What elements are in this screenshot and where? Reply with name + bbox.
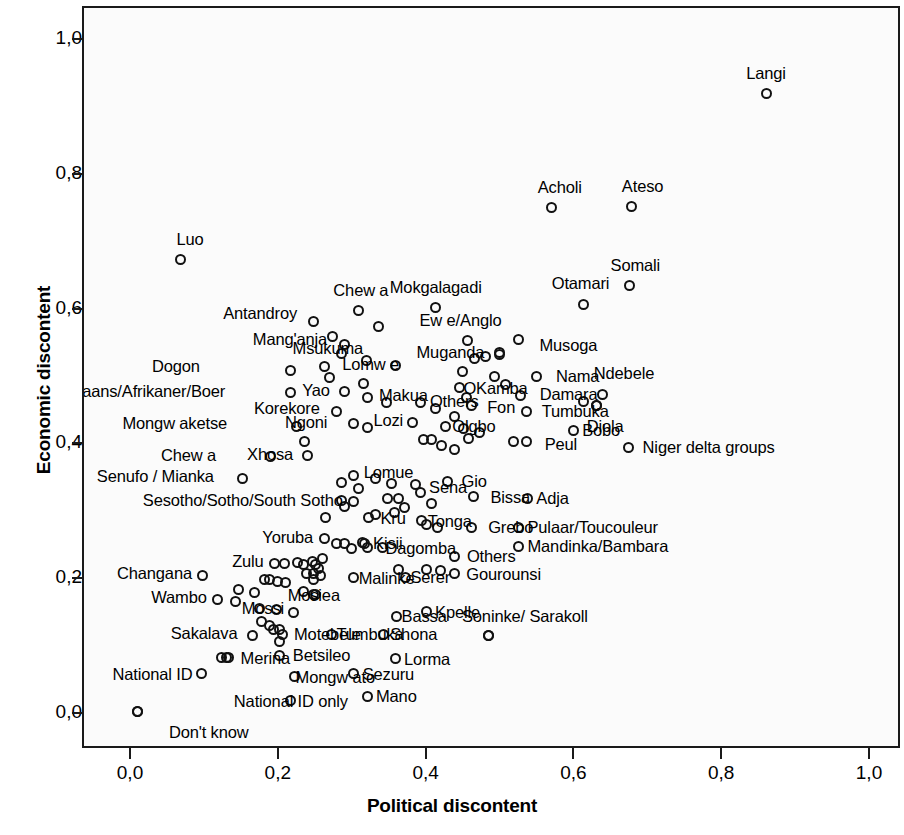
x-tick-mark	[868, 748, 870, 759]
data-point-marker[interactable]	[285, 365, 296, 376]
data-point-marker[interactable]	[362, 422, 373, 433]
data-point-marker[interactable]	[348, 496, 359, 507]
data-point-label: Muganda	[417, 343, 485, 360]
data-point-marker[interactable]	[279, 558, 290, 569]
data-point-marker[interactable]	[249, 587, 260, 598]
data-point-label: Mandinka/Bambara	[527, 538, 668, 555]
data-point-label: Mosiea	[288, 586, 340, 603]
data-point-marker[interactable]	[513, 334, 524, 345]
data-point-marker[interactable]	[302, 450, 313, 461]
x-tick-label: 0,8	[691, 762, 751, 784]
data-point-marker[interactable]	[436, 440, 447, 451]
y-tick-mark	[72, 712, 82, 714]
data-point-label: Others	[430, 392, 479, 409]
data-point-marker[interactable]	[348, 470, 359, 481]
data-point-label: Mang'anja	[253, 330, 327, 347]
data-point-marker[interactable]	[449, 444, 460, 455]
data-point-marker[interactable]	[362, 542, 373, 553]
data-point-marker[interactable]	[274, 624, 285, 635]
data-point-marker[interactable]	[531, 371, 542, 382]
data-point-label: National ID	[112, 665, 192, 682]
data-point-label: Merina	[241, 650, 291, 667]
data-point-label: Don't know	[169, 723, 249, 740]
data-point-marker[interactable]	[373, 321, 384, 332]
data-point-marker[interactable]	[483, 630, 494, 641]
data-point-marker[interactable]	[348, 572, 359, 583]
data-point-marker[interactable]	[382, 493, 393, 504]
data-point-marker[interactable]	[546, 202, 557, 213]
data-point-marker[interactable]	[339, 386, 350, 397]
data-point-marker[interactable]	[288, 607, 299, 618]
data-point-marker[interactable]	[285, 387, 296, 398]
data-point-label: Others	[467, 548, 516, 565]
data-point-marker[interactable]	[353, 483, 364, 494]
data-point-marker[interactable]	[223, 652, 234, 663]
data-point-marker[interactable]	[274, 636, 285, 647]
data-point-label: Mongw aketse	[122, 414, 227, 431]
data-point-marker[interactable]	[407, 417, 418, 428]
x-tick-mark	[572, 748, 574, 759]
data-point-label: Tonga	[428, 512, 472, 529]
data-point-marker[interactable]	[362, 392, 373, 403]
data-point-label: Peul	[545, 436, 577, 453]
data-point-marker[interactable]	[336, 477, 347, 488]
data-point-marker[interactable]	[468, 491, 479, 502]
data-point-marker[interactable]	[597, 389, 608, 400]
data-point-label: Afrikaans/Afrikaner/Boer	[82, 382, 225, 399]
data-point-marker[interactable]	[415, 487, 426, 498]
data-point-marker[interactable]	[626, 201, 637, 212]
data-point-marker[interactable]	[175, 254, 186, 265]
x-tick-label: 0,2	[248, 762, 308, 784]
data-point-marker[interactable]	[197, 570, 208, 581]
data-point-marker[interactable]	[308, 574, 319, 585]
data-point-marker[interactable]	[457, 366, 468, 377]
data-point-label: Fon	[487, 399, 515, 416]
data-point-marker[interactable]	[521, 406, 532, 417]
data-point-label: Malinke	[359, 569, 415, 586]
data-point-marker[interactable]	[358, 378, 369, 389]
data-point-marker[interactable]	[521, 436, 532, 447]
data-point-marker[interactable]	[299, 436, 310, 447]
data-point-marker[interactable]	[362, 691, 373, 702]
data-point-marker[interactable]	[623, 442, 634, 453]
data-point-marker[interactable]	[132, 706, 143, 717]
data-point-marker[interactable]	[578, 299, 589, 310]
data-point-marker[interactable]	[320, 512, 331, 523]
data-point-marker[interactable]	[269, 558, 280, 569]
data-point-marker[interactable]	[426, 434, 437, 445]
data-point-label: Mossi	[242, 600, 284, 617]
data-point-marker[interactable]	[319, 533, 330, 544]
data-point-marker[interactable]	[308, 316, 319, 327]
y-tick-mark	[72, 38, 82, 40]
y-tick-mark	[72, 308, 82, 310]
data-point-marker[interactable]	[331, 406, 342, 417]
data-point-marker[interactable]	[624, 280, 635, 291]
data-point-marker[interactable]	[761, 88, 772, 99]
data-point-label: Sezuru	[363, 665, 414, 682]
x-tick-label: 1,0	[839, 762, 899, 784]
data-point-label: Kru	[380, 509, 405, 526]
data-point-marker[interactable]	[353, 305, 364, 316]
data-point-marker[interactable]	[319, 361, 330, 372]
data-point-marker[interactable]	[494, 349, 505, 360]
data-point-label: Musoga	[539, 336, 597, 353]
data-point-marker[interactable]	[426, 498, 437, 509]
data-point-marker[interactable]	[346, 543, 357, 554]
data-point-marker[interactable]	[348, 418, 359, 429]
data-point-marker[interactable]	[391, 611, 402, 622]
data-point-marker[interactable]	[237, 473, 248, 484]
data-point-marker[interactable]	[233, 584, 244, 595]
data-point-label: Mokgalagadi	[390, 278, 482, 295]
x-axis-title: Political discontent	[0, 795, 904, 817]
data-point-marker[interactable]	[196, 668, 207, 679]
data-point-label: Acholi	[538, 179, 582, 196]
data-point-marker[interactable]	[440, 421, 451, 432]
data-point-marker[interactable]	[230, 596, 241, 607]
y-tick-mark	[72, 173, 82, 175]
data-point-marker[interactable]	[247, 630, 258, 641]
data-point-marker[interactable]	[390, 653, 401, 664]
data-point-marker[interactable]	[317, 553, 328, 564]
data-point-marker[interactable]	[212, 594, 223, 605]
data-point-marker[interactable]	[508, 436, 519, 447]
data-point-label: Chew a	[333, 281, 388, 298]
